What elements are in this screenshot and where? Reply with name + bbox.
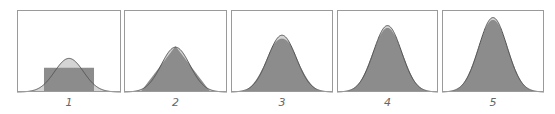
- panel-label-5: 5: [483, 96, 503, 109]
- panel-label-4: 4: [378, 96, 398, 109]
- sum-distribution-area: [44, 68, 94, 92]
- sum-distribution-area: [442, 20, 544, 92]
- chart-panel-3: [231, 10, 333, 92]
- chart-panel-4: [337, 10, 438, 92]
- panel-label-3: 3: [272, 96, 292, 109]
- clt-figure: 12345: [0, 0, 555, 114]
- chart-panel-1: [17, 10, 121, 92]
- sum-distribution-area: [124, 46, 227, 92]
- chart-panel-2: [124, 10, 227, 92]
- panel-label-1: 1: [59, 96, 79, 109]
- chart-panel-5: [442, 10, 544, 92]
- sum-distribution-area: [337, 28, 438, 92]
- sum-distribution-area: [231, 39, 333, 92]
- panel-label-2: 2: [166, 96, 186, 109]
